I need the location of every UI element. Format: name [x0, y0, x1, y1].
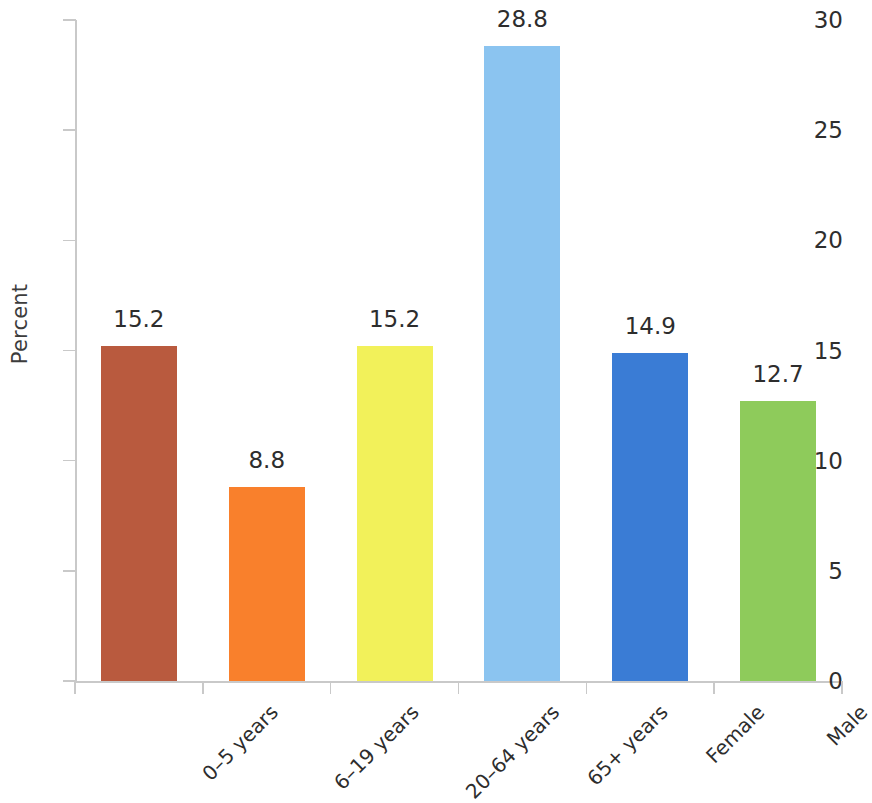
y-tick-mark	[63, 350, 76, 352]
x-tick-mark	[74, 681, 76, 694]
bar-value-label: 15.2	[113, 306, 164, 332]
bar[interactable]: 15.2	[101, 306, 177, 681]
bar[interactable]: 28.8	[484, 6, 560, 681]
y-axis-title: Percent	[8, 244, 32, 404]
y-tick-mark	[63, 240, 76, 242]
y-tick-label: 20	[785, 227, 843, 253]
x-category-label: 0–5 years	[197, 700, 282, 785]
bar-value-label: 14.9	[625, 313, 676, 339]
bar-rect[interactable]	[229, 487, 305, 681]
bar-value-label: 8.8	[248, 447, 285, 473]
x-category-label: Male	[822, 700, 872, 750]
y-tick-mark	[63, 19, 76, 21]
bar-value-label: 15.2	[369, 306, 420, 332]
x-category-label: 20–64 years	[460, 700, 563, 803]
y-tick-label: 25	[785, 117, 843, 143]
bar-value-label: 12.7	[752, 361, 803, 387]
bar-rect[interactable]	[740, 401, 816, 681]
x-tick-mark	[458, 681, 460, 694]
bar-rect[interactable]	[612, 353, 688, 681]
y-tick-label: 15	[785, 338, 843, 364]
x-category-label: 6–19 years	[329, 700, 423, 794]
y-tick-mark	[63, 129, 76, 131]
bar-rect[interactable]	[101, 346, 177, 681]
bar-rect[interactable]	[484, 46, 560, 681]
y-tick-mark	[63, 570, 76, 572]
y-tick-mark	[63, 460, 76, 462]
bar[interactable]: 15.2	[357, 306, 433, 681]
bar[interactable]: 12.7	[740, 361, 816, 681]
x-tick-mark	[841, 681, 843, 694]
x-tick-mark	[586, 681, 588, 694]
bar-value-label: 28.8	[497, 6, 548, 32]
x-tick-mark	[713, 681, 715, 694]
y-tick-label: 30	[785, 7, 843, 33]
x-category-label: 65+ years	[583, 700, 673, 790]
bar[interactable]: 14.9	[612, 313, 688, 681]
bar[interactable]: 8.8	[229, 447, 305, 681]
x-tick-mark	[330, 681, 332, 694]
x-category-label: Female	[701, 700, 769, 768]
bar-rect[interactable]	[357, 346, 433, 681]
x-tick-mark	[202, 681, 204, 694]
